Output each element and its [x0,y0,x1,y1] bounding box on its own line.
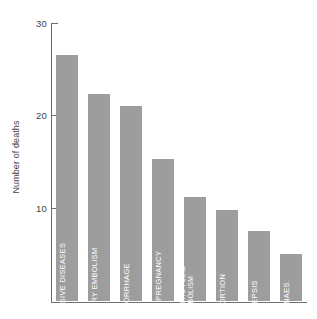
bar-pulmonary-embolism[interactable]: PULMONARY EMBOLISM [88,94,110,300]
y-tick-label-30: 30 [13,18,47,29]
bar-sepsis[interactable]: SEPSIS [248,231,270,300]
bar-haemorrhage[interactable]: HAEMORRHAGE [120,106,142,300]
y-tick-label-10: 10 [13,203,47,214]
bar-abortion[interactable]: ABORTION [216,210,238,301]
bar-label-ectopic-pregnancy: ECTOPIC PREGNANCY [155,251,164,319]
bar-chart: Number of deaths 30 20 10 HYPERTENSIVE D… [0,0,317,319]
bar-ectopic-pregnancy[interactable]: ECTOPIC PREGNANCY [152,159,174,301]
bar-label-amniotic-fluid-embolism: AMNIOTIC FLUIDEMBOLISM [179,258,195,319]
bar-label-anaes: ANAES. [283,280,292,309]
bar-label-hypertensive-diseases: HYPERTENSIVE DISEASES [59,243,68,319]
x-axis-line [51,302,307,303]
bar-anaes[interactable]: ANAES. [280,254,302,300]
bar-label-pulmonary-embolism: PULMONARY EMBOLISM [91,248,100,319]
bar-label-haemorrhage: HAEMORRHAGE [123,263,132,319]
plot-area: HYPERTENSIVE DISEASES PULMONARY EMBOLISM… [51,23,307,302]
y-tick-label-20: 20 [13,110,47,121]
bar-hypertensive-diseases[interactable]: HYPERTENSIVE DISEASES [56,55,78,300]
bar-label-abortion: ABORTION [219,274,228,315]
bar-amniotic-fluid-embolism[interactable]: AMNIOTIC FLUIDEMBOLISM [184,197,206,301]
bar-label-sepsis: SEPSIS [251,280,260,309]
